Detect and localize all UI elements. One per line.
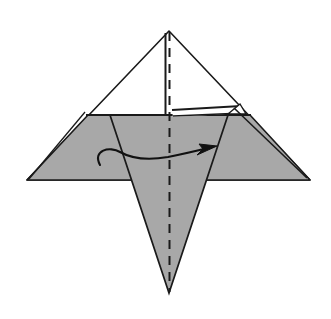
origami-illustration: Origami fold step diagram Kite-shaped or… (0, 0, 331, 319)
origami-diagram-figure: Origami fold step diagram Kite-shaped or… (0, 0, 331, 319)
